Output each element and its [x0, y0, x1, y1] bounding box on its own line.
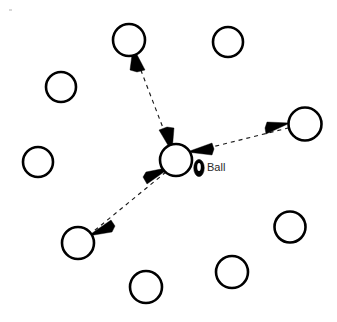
player-bottom[interactable]: [216, 256, 248, 288]
player-upper-left[interactable]: [46, 72, 76, 102]
pass-line: [94, 172, 166, 231]
passing-options-diagram: Ball: [0, 0, 337, 322]
player-bottom-mid[interactable]: [130, 271, 162, 303]
ball-highlight: [197, 163, 201, 171]
diagram-canvas: Ball: [0, 0, 337, 322]
pass-center-to-right: [187, 122, 290, 155]
pass-center-to-lower-left: [88, 167, 171, 236]
player-top[interactable]: [113, 24, 145, 56]
ball[interactable]: [194, 159, 204, 176]
pass-center-to-top: [130, 47, 174, 152]
player-center[interactable]: [160, 144, 192, 176]
player-top-right[interactable]: [213, 27, 243, 57]
ball-label: Ball: [207, 161, 225, 173]
scan-speck: [9, 9, 12, 11]
player-bottom-right[interactable]: [275, 212, 306, 243]
player-lower-left[interactable]: [62, 227, 94, 259]
player-right[interactable]: [289, 108, 322, 141]
player-left[interactable]: [23, 147, 53, 177]
